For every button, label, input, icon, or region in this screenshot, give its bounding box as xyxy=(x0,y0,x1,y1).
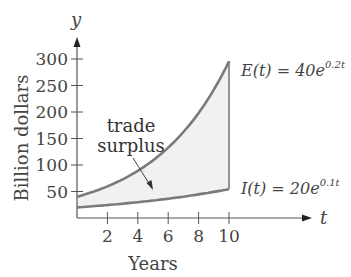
x-ticks: 246810 xyxy=(102,212,240,246)
t-axis-symbol: t xyxy=(320,207,328,228)
y-axis-arrow-icon xyxy=(74,37,81,47)
trade-label-line1: trade xyxy=(107,115,156,136)
x-tick-label: 2 xyxy=(102,226,113,246)
y-axis-title: Billion dollars xyxy=(11,75,32,202)
x-axis-title: Years xyxy=(127,253,178,274)
export-equation: E(t) = 40e0.2t xyxy=(240,59,346,80)
trade-surplus-chart: 50100150200250300 246810 y t Billion dol… xyxy=(0,0,351,277)
trade-label-line2: surplus xyxy=(97,135,165,156)
y-ticks: 50100150200250300 xyxy=(36,49,83,202)
y-tick-label: 200 xyxy=(36,102,68,122)
x-tick-label: 10 xyxy=(218,226,240,246)
y-tick-label: 100 xyxy=(36,155,68,175)
y-tick-label: 50 xyxy=(46,182,68,202)
x-tick-label: 8 xyxy=(193,226,204,246)
y-tick-label: 150 xyxy=(36,129,68,149)
import-equation: I(t) = 20e0.1t xyxy=(240,177,341,198)
y-tick-label: 250 xyxy=(36,76,68,96)
x-tick-label: 6 xyxy=(163,226,174,246)
x-tick-label: 4 xyxy=(132,226,143,246)
x-axis-arrow-icon xyxy=(302,215,312,222)
y-axis-symbol: y xyxy=(70,9,82,30)
y-tick-label: 300 xyxy=(36,49,68,69)
